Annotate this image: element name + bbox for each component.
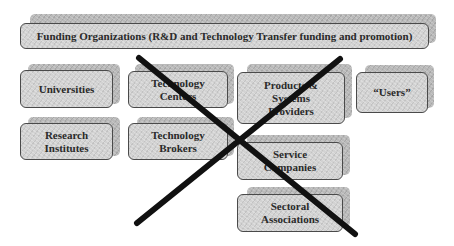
universities-label: Universities (39, 83, 95, 96)
technology-brokers-label: Technology Brokers (151, 129, 204, 155)
users-box: “Users” (356, 72, 428, 113)
research-institutes-label: Research Institutes (44, 129, 88, 155)
technology-centers-box: Technology Centers (128, 71, 228, 108)
service-companies-box: Service Companies (237, 142, 343, 180)
users-label: “Users” (373, 86, 410, 99)
funding-organizations-label: Funding Organizations (R&D and Technolog… (37, 30, 413, 43)
sectoral-associations-label: Sectoral Associations (261, 200, 319, 226)
funding-organizations-box: Funding Organizations (R&D and Technolog… (20, 23, 429, 49)
service-companies-label: Service Companies (264, 148, 317, 174)
universities-box: Universities (20, 70, 113, 108)
products-systems-providers-box: Products & Systems Providers (237, 72, 345, 124)
products-systems-providers-label: Products & Systems Providers (264, 79, 318, 118)
research-institutes-box: Research Institutes (20, 123, 113, 160)
sectoral-associations-box: Sectoral Associations (237, 194, 343, 232)
technology-brokers-box: Technology Brokers (128, 123, 228, 160)
technology-centers-label: Technology Centers (151, 77, 204, 103)
